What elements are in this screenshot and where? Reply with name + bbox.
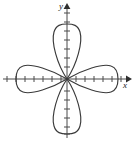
rose-curve-figure: y x [0, 0, 134, 141]
x-axis-label: x [123, 81, 127, 90]
y-axis-label: y [59, 2, 63, 11]
axes-group [3, 3, 132, 138]
y-axis-arrowhead [64, 3, 71, 9]
rose-curve-plot [0, 0, 134, 141]
